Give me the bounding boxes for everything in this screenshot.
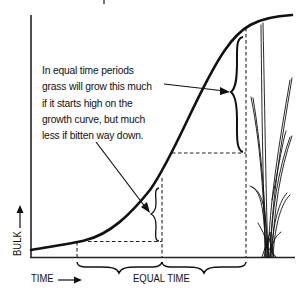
- caption-line: if it starts high on the: [42, 95, 152, 111]
- small-growth-brace: [151, 188, 159, 241]
- y-axis-label: BULK: [11, 231, 23, 256]
- x-axis-label: TIME: [31, 272, 54, 284]
- diagram-graphics: [0, 0, 308, 299]
- arrowhead-large: [220, 87, 230, 95]
- caption-line: less if bitten way down.: [42, 127, 152, 143]
- arrow-to-small-brace: [96, 142, 146, 208]
- caption-line: grass will grow this much: [42, 78, 152, 94]
- growth-curve-diagram: In equal time periods grass will grow th…: [0, 0, 308, 299]
- caption-line: growth curve, but much: [42, 111, 152, 127]
- time-arrow-head: [74, 277, 82, 284]
- grass-plant-icon: [250, 23, 292, 257]
- bulk-arrow-head: [17, 205, 24, 213]
- caption-line: In equal time periods: [42, 62, 152, 78]
- large-growth-brace: [231, 37, 243, 152]
- explanation-caption: In equal time periods grass will grow th…: [42, 62, 152, 143]
- arrow-to-large-brace: [164, 84, 225, 91]
- equal-time-label: EQUAL TIME: [133, 272, 190, 284]
